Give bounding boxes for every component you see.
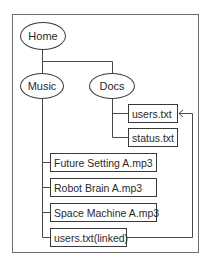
node-docs-label: Docs [99,80,124,92]
node-music[interactable]: Music [20,73,64,99]
file-label: Space Machine A.mp3 [54,207,159,219]
node-docs[interactable]: Docs [89,73,135,99]
file-users-txt[interactable]: users.txt [128,104,178,123]
node-music-label: Music [28,80,57,92]
file-label: users.txt [132,108,172,120]
file-status-txt[interactable]: status.txt [128,128,178,147]
node-home-label: Home [28,30,57,42]
file-future-setting[interactable]: Future Setting A.mp3 [50,153,157,172]
file-label: users.txt(linked) [54,232,128,244]
file-label: Robot Brain A.mp3 [54,182,142,194]
file-label: Future Setting A.mp3 [54,157,153,169]
file-label: status.txt [132,132,174,144]
file-space-machine[interactable]: Space Machine A.mp3 [50,203,157,222]
node-home[interactable]: Home [20,22,66,50]
file-users-txt-linked[interactable]: users.txt(linked) [50,228,127,247]
file-robot-brain[interactable]: Robot Brain A.mp3 [50,178,157,197]
